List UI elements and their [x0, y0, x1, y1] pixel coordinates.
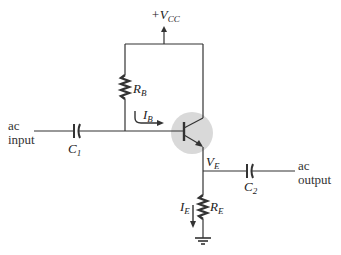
ac-input-line2: input [8, 133, 35, 147]
vcc-arrowhead-icon [161, 26, 167, 32]
ib-label: IB [143, 108, 153, 121]
ac-output-line1: ac [298, 159, 331, 173]
ie-arrowhead-icon [190, 221, 196, 228]
rb-resistor-icon [121, 75, 129, 99]
c2-label: C2 [244, 180, 257, 193]
ib-sub: B [147, 114, 153, 124]
ve-sub: E [214, 161, 220, 171]
re-resistor-icon [199, 195, 207, 219]
ve-label: VE [206, 155, 219, 168]
c2-sub: 2 [253, 186, 258, 196]
c1-main: C [68, 141, 77, 156]
ac-input-label: ac input [8, 119, 35, 147]
re-label: RE [210, 200, 223, 213]
ac-output-label: ac output [298, 159, 331, 187]
circuit-diagram [0, 0, 341, 255]
c2-main: C [244, 179, 253, 194]
re-sub: E [218, 206, 224, 216]
vcc-sub: CC [168, 14, 180, 24]
rb-sub: B [141, 88, 147, 98]
ac-input-line1: ac [8, 119, 35, 133]
ve-main: V [206, 154, 214, 169]
c1-label: C1 [68, 142, 81, 155]
rb-main: R [133, 81, 141, 96]
ac-output-line2: output [298, 173, 331, 187]
vcc-prefix: +V [151, 7, 168, 22]
c1-sub: 1 [77, 148, 82, 158]
ie-label: IE [180, 200, 190, 213]
vcc-label: +VCC [151, 8, 180, 21]
re-main: R [210, 199, 218, 214]
rb-label: RB [133, 82, 146, 95]
ib-arrowhead-icon [157, 120, 164, 126]
transistor-highlight [171, 112, 213, 154]
ie-sub: E [184, 206, 190, 216]
